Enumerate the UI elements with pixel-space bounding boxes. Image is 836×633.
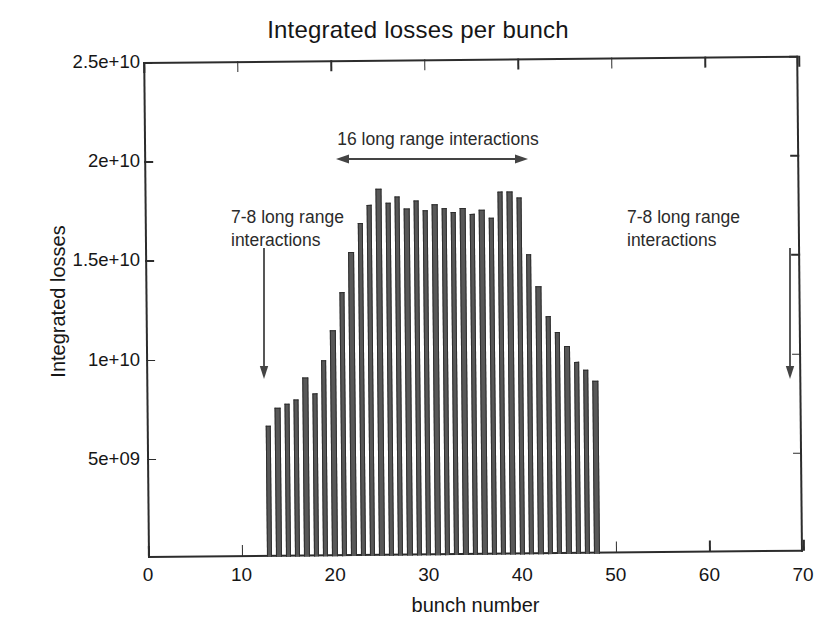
- span-double-arrow-icon: [336, 152, 528, 166]
- bar: [564, 346, 571, 554]
- left-annotation-line2: interactions: [231, 229, 381, 252]
- x-tick-top: [143, 62, 145, 73]
- y-tick: [143, 62, 152, 64]
- y-tick-label: 1e+10: [88, 349, 140, 371]
- bar: [460, 208, 469, 555]
- x-tick-top: [237, 61, 239, 72]
- y-tick-right: [790, 155, 799, 157]
- bar: [330, 330, 338, 556]
- bar: [583, 369, 590, 554]
- x-tick: [616, 541, 618, 552]
- bar: [404, 208, 413, 555]
- x-tick: [709, 541, 711, 552]
- bar: [432, 204, 441, 555]
- bar: [413, 200, 422, 555]
- y-tick: [147, 459, 156, 461]
- right-arrow-down-icon: [784, 248, 796, 380]
- bar: [423, 210, 432, 555]
- x-tick-label: 50: [605, 564, 626, 586]
- bar: [385, 203, 394, 556]
- bar: [266, 426, 273, 557]
- y-tick-label: 5e+09: [88, 448, 140, 470]
- axis-line-top: [143, 56, 798, 64]
- bar: [293, 400, 300, 557]
- bar: [574, 361, 581, 553]
- bar: [312, 394, 319, 557]
- left-arrow-down-icon: [258, 248, 270, 380]
- bar: [394, 196, 403, 555]
- x-tick-top: [518, 58, 520, 69]
- bar: [593, 381, 600, 554]
- bar: [526, 255, 534, 555]
- x-tick-top: [798, 56, 800, 67]
- span-annotation-label: 16 long range interactions: [323, 128, 553, 151]
- bar: [275, 408, 282, 557]
- x-tick: [241, 545, 243, 556]
- bar: [469, 214, 478, 555]
- page-title: Integrated losses per bunch: [0, 16, 836, 44]
- bar: [536, 286, 544, 554]
- y-tick-right: [793, 453, 802, 455]
- x-tick: [803, 540, 805, 551]
- y-tick-label: 2e+10: [88, 150, 140, 172]
- bar: [357, 223, 366, 556]
- x-tick-label: 60: [699, 564, 720, 586]
- y-tick: [145, 260, 154, 262]
- bar: [507, 191, 516, 554]
- y-tick: [146, 360, 155, 362]
- x-tick: [148, 546, 150, 557]
- y-tick-label: 1.5e+10: [73, 249, 140, 271]
- bar: [339, 292, 347, 556]
- x-tick-label: 40: [512, 564, 533, 586]
- y-tick-label: 2.5e+10: [73, 51, 140, 73]
- x-tick-top: [424, 59, 426, 70]
- axis-line-left: [143, 62, 149, 558]
- x-tick-label: 10: [231, 564, 252, 586]
- y-tick-right: [789, 56, 798, 58]
- right-annotation: 7-8 long range interactions: [627, 206, 777, 253]
- axis-line-right: [796, 56, 802, 552]
- bar: [479, 210, 488, 555]
- y-tick: [144, 161, 153, 163]
- chart-screenshot: Integrated losses per bunch Integrated l…: [0, 0, 836, 633]
- bar: [284, 404, 291, 557]
- x-tick-label: 20: [325, 564, 346, 586]
- x-tick-label: 0: [143, 564, 154, 586]
- bar: [321, 360, 328, 556]
- bar: [348, 252, 356, 556]
- bar: [555, 332, 563, 554]
- bar: [488, 217, 497, 554]
- bar: [441, 208, 450, 555]
- x-tick-label: 30: [418, 564, 439, 586]
- bar: [303, 378, 310, 557]
- x-tick-label: 70: [792, 564, 813, 586]
- bar: [497, 192, 506, 555]
- left-annotation-line1: 7-8 long range: [231, 206, 381, 229]
- bar: [366, 205, 375, 556]
- bar: [516, 197, 525, 554]
- right-annotation-line2: interactions: [627, 229, 777, 252]
- x-tick-top: [330, 60, 332, 71]
- x-tick-top: [611, 58, 613, 69]
- right-annotation-line1: 7-8 long range: [627, 206, 777, 229]
- y-axis-tick-labels: 5e+091e+101.5e+102e+102.5e+10: [0, 62, 140, 558]
- bar: [545, 316, 553, 554]
- x-tick-top: [705, 57, 707, 68]
- left-annotation: 7-8 long range interactions: [231, 206, 381, 253]
- bar: [451, 212, 460, 555]
- x-axis-title: bunch number: [148, 594, 803, 617]
